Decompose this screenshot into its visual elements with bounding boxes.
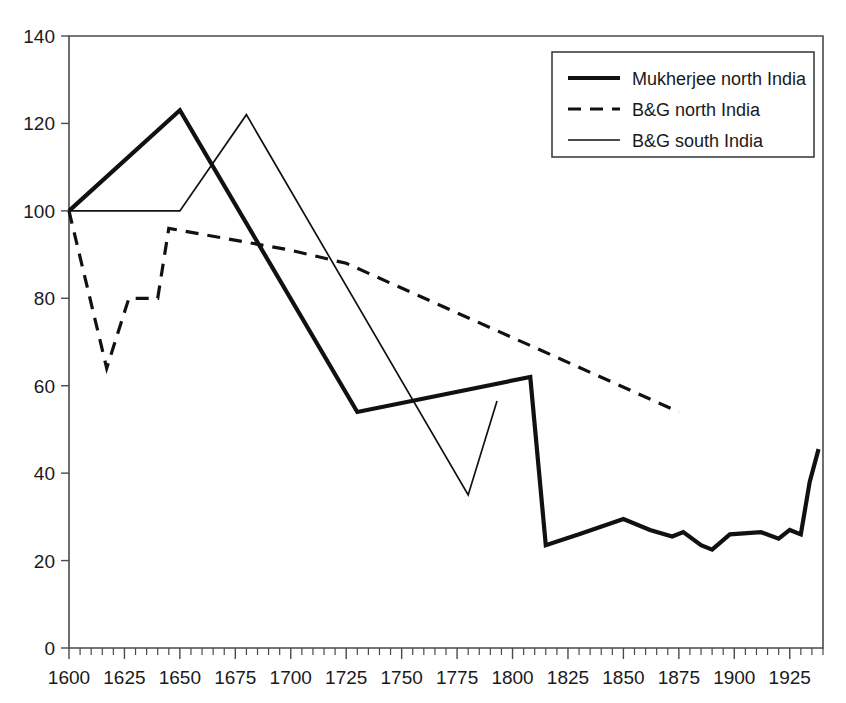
x-axis-minor-ticks (80, 648, 823, 655)
legend-label-2: B&G south India (632, 131, 764, 151)
y-tick-label: 140 (23, 26, 55, 47)
chart-series-group (69, 110, 819, 549)
x-tick-label: 1900 (713, 667, 755, 688)
series-line-b-g-north-india (69, 211, 679, 412)
line-chart: 020406080100120140 160016251650167517001… (0, 0, 846, 703)
x-tick-label: 1925 (769, 667, 811, 688)
x-tick-label: 1700 (270, 667, 312, 688)
series-line-b-g-south-india (69, 115, 497, 495)
x-tick-label: 1750 (381, 667, 423, 688)
y-tick-label: 100 (23, 201, 55, 222)
chart-legend: Mukherjee north IndiaB&G north IndiaB&G … (552, 52, 814, 157)
y-tick-label: 120 (23, 113, 55, 134)
x-tick-label: 1625 (103, 667, 145, 688)
x-tick-label: 1800 (491, 667, 533, 688)
x-tick-label: 1850 (602, 667, 644, 688)
y-tick-label: 80 (34, 288, 55, 309)
x-tick-label: 1650 (159, 667, 201, 688)
x-tick-label: 1775 (436, 667, 478, 688)
legend-label-0: Mukherjee north India (632, 69, 807, 89)
x-axis-ticks (69, 648, 790, 659)
y-tick-label: 20 (34, 551, 55, 572)
chart-container: 020406080100120140 160016251650167517001… (0, 0, 846, 703)
x-tick-label: 1825 (547, 667, 589, 688)
legend-label-1: B&G north India (632, 100, 761, 120)
x-axis-tick-labels: 1600162516501675170017251750177518001825… (48, 667, 811, 688)
x-tick-label: 1675 (214, 667, 256, 688)
x-tick-label: 1875 (658, 667, 700, 688)
y-tick-label: 0 (44, 638, 55, 659)
y-tick-label: 60 (34, 376, 55, 397)
y-axis-tick-labels: 020406080100120140 (23, 26, 55, 659)
x-tick-label: 1600 (48, 667, 90, 688)
series-line-mukherjee-north-india (69, 110, 819, 549)
y-tick-label: 40 (34, 463, 55, 484)
x-tick-label: 1725 (325, 667, 367, 688)
y-axis-ticks (61, 36, 69, 648)
